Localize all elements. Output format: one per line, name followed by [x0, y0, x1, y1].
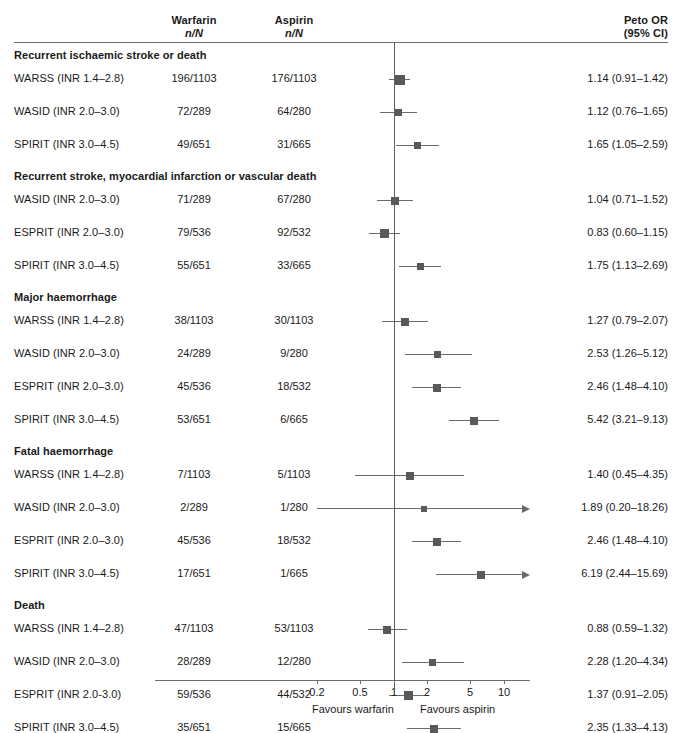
effect-marker — [433, 538, 441, 546]
effect-estimate-cell: 2.53 (1.26–5.12) — [587, 347, 668, 359]
study-label: WASID (INR 2.0–3.0) — [14, 193, 120, 205]
effect-estimate-cell: 1.40 (0.45–4.35) — [587, 468, 668, 480]
effect-estimate-cell: 5.42 (3.21–9.13) — [587, 413, 668, 425]
aspirin-count-cell: 9/280 — [248, 347, 340, 359]
aspirin-count-cell: 18/532 — [248, 380, 340, 392]
warfarin-count-cell: 196/1103 — [148, 72, 240, 84]
study-label: WASID (INR 2.0–3.0) — [14, 105, 120, 117]
effect-marker — [417, 263, 424, 270]
effect-estimate-cell: 1.12 (0.76–1.65) — [587, 105, 668, 117]
effect-marker — [421, 506, 427, 512]
column-header-warfarin-sub: n/N — [148, 27, 240, 40]
axis-tick — [470, 680, 471, 684]
column-header-effect: Peto OR (95% CI) — [566, 14, 668, 40]
warfarin-count-cell: 55/651 — [148, 259, 240, 271]
study-label: WARSS (INR 1.4–2.8) — [14, 72, 124, 84]
study-label: ESPRIT (INR 2.0–3.0) — [14, 226, 124, 238]
effect-marker — [414, 142, 421, 149]
study-label: WARSS (INR 1.4–2.8) — [14, 468, 124, 480]
study-label: WARSS (INR 1.4–2.8) — [14, 314, 124, 326]
axis-tick — [504, 680, 505, 684]
study-label: WARSS (INR 1.4–2.8) — [14, 622, 124, 634]
effect-marker — [383, 626, 391, 634]
effect-marker — [406, 472, 414, 480]
warfarin-count-cell: 28/289 — [148, 655, 240, 667]
effect-marker — [395, 109, 402, 116]
warfarin-count-cell: 2/289 — [148, 501, 240, 513]
column-header-aspirin-sub: n/N — [248, 27, 340, 40]
effect-estimate-cell: 2.46 (1.48–4.10) — [587, 534, 668, 546]
axis-tick — [394, 680, 395, 684]
effect-estimate-cell: 2.35 (1.33–4.13) — [587, 721, 668, 733]
effect-estimate-cell: 1.27 (0.79–2.07) — [587, 314, 668, 326]
effect-marker — [433, 384, 441, 392]
aspirin-count-cell: 92/532 — [248, 226, 340, 238]
effect-estimate-cell: 6.19 (2.44–15.69) — [581, 567, 668, 579]
effect-estimate-cell: 1.75 (1.13–2.69) — [587, 259, 668, 271]
study-label: WASID (INR 2.0–3.0) — [14, 501, 120, 513]
effect-estimate-cell: 1.04 (0.71–1.52) — [587, 193, 668, 205]
axis-tick-label: 2 — [407, 686, 447, 698]
warfarin-count-cell: 59/536 — [148, 688, 240, 700]
column-header-aspirin: Aspirin n/N — [248, 14, 340, 40]
group-label: Recurrent ischaemic stroke or death — [14, 49, 207, 61]
ci-truncation-arrow-icon — [522, 505, 530, 513]
aspirin-count-cell: 53/1103 — [248, 622, 340, 634]
warfarin-count-cell: 17/651 — [148, 567, 240, 579]
group-label: Recurrent stroke, myocardial infarction … — [14, 170, 316, 182]
aspirin-count-cell: 67/280 — [248, 193, 340, 205]
group-label: Death — [14, 599, 45, 611]
axis-tick — [360, 680, 361, 684]
study-label: SPIRIT (INR 3.0–4.5) — [14, 138, 119, 150]
effect-marker — [391, 197, 399, 205]
group-label: Fatal haemorrhage — [14, 445, 113, 457]
aspirin-count-cell: 33/665 — [248, 259, 340, 271]
effect-estimate-cell: 0.88 (0.59–1.32) — [587, 622, 668, 634]
aspirin-count-cell: 64/280 — [248, 105, 340, 117]
column-header-aspirin-title: Aspirin — [248, 14, 340, 27]
warfarin-count-cell: 7/1103 — [148, 468, 240, 480]
warfarin-count-cell: 38/1103 — [148, 314, 240, 326]
aspirin-count-cell: 30/1103 — [248, 314, 340, 326]
effect-estimate-cell: 2.28 (1.20–4.34) — [587, 655, 668, 667]
column-header-effect-sub: (95% CI) — [566, 27, 668, 40]
confidence-interval-line — [317, 508, 522, 509]
effect-marker — [380, 229, 389, 238]
effect-estimate-cell: 2.46 (1.48–4.10) — [587, 380, 668, 392]
warfarin-count-cell: 71/289 — [148, 193, 240, 205]
column-header-warfarin: Warfarin n/N — [148, 14, 240, 40]
warfarin-count-cell: 72/289 — [148, 105, 240, 117]
axis-tick-label: 0.2 — [297, 686, 337, 698]
study-label: ESPRIT (INR 2.0–3.0) — [14, 380, 124, 392]
effect-marker — [434, 351, 441, 358]
study-label: WASID (INR 2.0–3.0) — [14, 655, 120, 667]
header-rule — [14, 42, 668, 43]
effect-marker — [401, 318, 409, 326]
aspirin-count-cell: 18/532 — [248, 534, 340, 546]
aspirin-count-cell: 6/665 — [248, 413, 340, 425]
effect-marker — [470, 417, 478, 425]
axis-tick — [427, 680, 428, 684]
effect-marker — [395, 75, 405, 85]
warfarin-count-cell: 79/536 — [148, 226, 240, 238]
aspirin-count-cell: 12/280 — [248, 655, 340, 667]
warfarin-count-cell: 47/1103 — [148, 622, 240, 634]
aspirin-count-cell: 1/665 — [248, 567, 340, 579]
ci-truncation-arrow-icon — [522, 571, 530, 579]
axis-tick-label: 10 — [484, 686, 524, 698]
effect-marker — [430, 725, 438, 733]
study-label: ESPRIT (INR 2.0–3.0) — [14, 534, 124, 546]
study-label: SPIRIT (INR 3.0–4.5) — [14, 259, 119, 271]
warfarin-count-cell: 45/536 — [148, 380, 240, 392]
effect-estimate-cell: 1.89 (0.20–18.26) — [581, 501, 668, 513]
axis-caption-left: Favours warfarin — [312, 703, 394, 715]
group-label: Major haemorrhage — [14, 291, 117, 303]
effect-estimate-cell: 1.14 (0.91–1.42) — [587, 72, 668, 84]
study-label: ESPRIT (INR 2.0-3.0) — [14, 688, 121, 700]
column-header-effect-title: Peto OR — [566, 14, 668, 27]
axis-tick — [317, 680, 318, 684]
effect-marker — [477, 571, 485, 579]
effect-estimate-cell: 1.37 (0.91–2.05) — [587, 688, 668, 700]
aspirin-count-cell: 5/1103 — [248, 468, 340, 480]
